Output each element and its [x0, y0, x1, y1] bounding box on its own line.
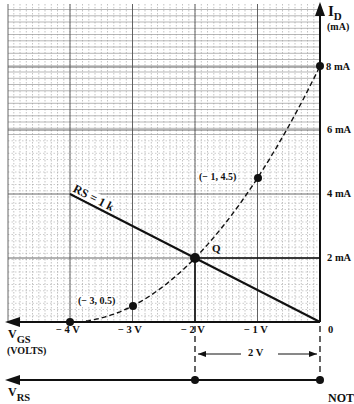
point-minus3 [129, 302, 137, 310]
y-tick-6ma: 6 mA [327, 125, 351, 136]
x-tick-minus4: − 4 V [56, 325, 80, 336]
id-axis-units: (mA) [327, 22, 349, 32]
vrs-point-minus2 [191, 376, 199, 384]
x-tick-minus1: − 1 V [244, 325, 268, 336]
y-tick-4ma: 4 mA [327, 189, 351, 200]
vgs-axis-arrow-icon [5, 317, 20, 327]
id-axis-arrow-icon [315, 2, 325, 16]
dimension-label: 2 V [248, 348, 263, 359]
origin-label: 0 [328, 325, 333, 336]
vrs-right-text: NOT [328, 392, 354, 404]
y-tick-8ma: 8 mA [326, 62, 350, 73]
diagram-canvas [0, 0, 354, 404]
vgs-axis-label: VGS [8, 328, 31, 341]
point-label-minus3: (− 3, 0.5) [78, 296, 115, 306]
q-point [190, 253, 200, 263]
y-tick-2ma: 2 mA [327, 253, 351, 264]
point-idss [316, 62, 324, 70]
point-label-minus1: (− 1, 4.5) [199, 172, 236, 182]
vrs-point-zero [316, 376, 324, 384]
vrs-axis-label: VRS [8, 386, 30, 399]
vgs-axis [5, 317, 320, 327]
x-tick-minus2: − 2 V [181, 325, 205, 336]
point-minus1 [254, 174, 262, 182]
jfet-transfer-diagram: ID (mA) 8 mA 6 mA 4 mA 2 mA 0 − 4 V − 3 … [0, 0, 354, 404]
graph-paper-grid [8, 4, 320, 322]
vgs-axis-units: (VOLTS) [7, 346, 46, 356]
x-tick-minus3: − 3 V [118, 325, 142, 336]
q-point-label: Q [212, 243, 221, 254]
id-axis-label: ID [328, 4, 342, 19]
id-axis [315, 2, 325, 322]
vrs-axis-arrow-icon [5, 375, 20, 385]
vrs-axis [5, 375, 324, 385]
